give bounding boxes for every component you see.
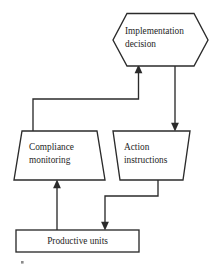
- edge-action-to-productive-line: [105, 180, 158, 223]
- edge-decision-to-action: [171, 66, 179, 132]
- node-productive-units[interactable]: Productive units: [16, 230, 139, 252]
- productive-units-label: Productive units: [47, 236, 108, 246]
- implementation-decision-label-line1: Implementation: [125, 26, 184, 36]
- node-implementation-decision[interactable]: Implementation decision: [113, 14, 208, 67]
- edge-productive-to-compliance-arrowhead: [53, 180, 61, 189]
- edge-decision-to-action-arrowhead: [171, 123, 179, 132]
- node-compliance-monitoring[interactable]: Compliance monitoring: [14, 131, 105, 180]
- action-instructions-label-line1: Action: [124, 142, 150, 152]
- implementation-decision-label-line2: decision: [125, 39, 156, 49]
- node-action-instructions[interactable]: Action instructions: [113, 131, 190, 180]
- edge-productive-to-compliance: [53, 180, 61, 231]
- edge-action-to-productive: [101, 180, 158, 231]
- flow-diagram: Implementation decision Compliance monit…: [0, 0, 215, 270]
- edge-action-to-productive-arrowhead: [101, 222, 109, 231]
- scan-speck: [21, 261, 24, 264]
- action-instructions-label-line2: instructions: [124, 155, 168, 165]
- diagram-canvas: Implementation decision Compliance monit…: [0, 0, 215, 270]
- edge-compliance-to-decision-line: [33, 71, 139, 131]
- compliance-monitoring-label-line1: Compliance: [29, 142, 74, 152]
- edge-compliance-to-decision: [33, 65, 142, 132]
- compliance-monitoring-label-line2: monitoring: [29, 155, 71, 165]
